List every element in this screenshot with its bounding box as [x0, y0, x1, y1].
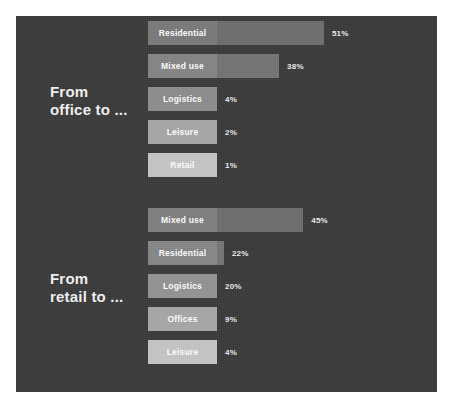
bar-row: Mixed use45% [148, 208, 437, 232]
bar-extension [217, 21, 324, 45]
bar-extension [217, 208, 303, 232]
bar-mixed-use: Mixed use [148, 208, 303, 232]
bar-category-label: Leisure [167, 127, 199, 137]
bar-mixed-use: Mixed use [148, 54, 279, 78]
bar-label-box: Residential [148, 21, 217, 45]
bar-row: Logistics20% [148, 274, 437, 298]
bar-logistics: Logistics [148, 274, 217, 298]
bar-extension [217, 54, 279, 78]
group-title-from-office: From office to ... [50, 83, 160, 119]
bar-row: Retail1% [148, 153, 437, 177]
bar-category-label: Residential [159, 28, 207, 38]
bar-value-label: 45% [311, 208, 328, 232]
bar-value-label: 38% [287, 54, 304, 78]
bar-category-label: Offices [167, 314, 197, 324]
bar-row: Mixed use38% [148, 54, 437, 78]
bar-value-label: 2% [225, 120, 237, 144]
bar-row: Leisure2% [148, 120, 437, 144]
bar-row: Offices9% [148, 307, 437, 331]
bar-value-label: 22% [232, 241, 249, 265]
bar-value-label: 20% [225, 274, 242, 298]
bar-row: Residential51% [148, 21, 437, 45]
bar-label-box: Residential [148, 241, 217, 265]
bar-offices: Offices [148, 307, 217, 331]
bar-label-box: Leisure [148, 340, 217, 364]
group-title-line-1: From [50, 270, 160, 288]
bar-label-box: Mixed use [148, 54, 217, 78]
bar-label-box: Leisure [148, 120, 217, 144]
bar-row: Leisure4% [148, 340, 437, 364]
bar-category-label: Retail [170, 160, 194, 170]
bar-category-label: Residential [159, 248, 207, 258]
bar-logistics: Logistics [148, 87, 217, 111]
bar-value-label: 4% [225, 87, 237, 111]
bar-row: Logistics4% [148, 87, 437, 111]
bar-row: Residential22% [148, 241, 437, 265]
bar-category-label: Mixed use [161, 215, 204, 225]
bar-value-label: 9% [225, 307, 237, 331]
bar-label-box: Logistics [148, 274, 217, 298]
bar-category-label: Logistics [163, 281, 202, 291]
group-title-from-retail: From retail to ... [50, 270, 160, 306]
bar-leisure: Leisure [148, 340, 217, 364]
bar-rows-from-retail: Mixed use45%Residential22%Logistics20%Of… [148, 208, 437, 373]
bar-residential: Residential [148, 21, 324, 45]
group-title-line-2: office to ... [50, 101, 160, 119]
chart-panel: From office to ... Residential51%Mixed u… [16, 16, 437, 392]
group-title-line-2: retail to ... [50, 288, 160, 306]
bar-category-label: Mixed use [161, 61, 204, 71]
group-title-line-1: From [50, 83, 160, 101]
bar-label-box: Offices [148, 307, 217, 331]
bar-residential: Residential [148, 241, 224, 265]
bar-rows-from-office: Residential51%Mixed use38%Logistics4%Lei… [148, 21, 437, 186]
bar-value-label: 4% [225, 340, 237, 364]
bar-category-label: Logistics [163, 94, 202, 104]
bar-retail: Retail [148, 153, 217, 177]
bar-label-box: Retail [148, 153, 217, 177]
bar-label-box: Logistics [148, 87, 217, 111]
bar-value-label: 51% [332, 21, 349, 45]
bar-category-label: Leisure [167, 347, 199, 357]
bar-leisure: Leisure [148, 120, 217, 144]
bar-label-box: Mixed use [148, 208, 217, 232]
bar-extension [217, 241, 224, 265]
bar-value-label: 1% [225, 153, 237, 177]
